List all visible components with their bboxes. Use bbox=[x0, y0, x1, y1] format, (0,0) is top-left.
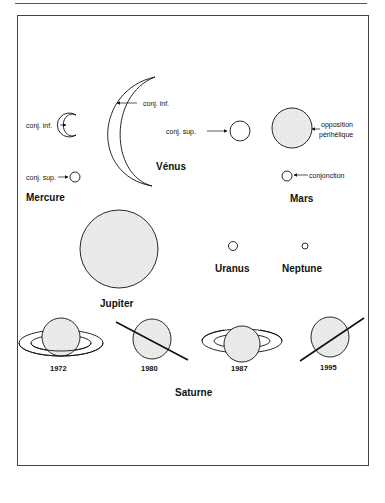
uranus-disk bbox=[229, 242, 238, 251]
venus-crescent bbox=[108, 77, 155, 186]
mars-disk-conjonction bbox=[282, 171, 292, 181]
saturne-year-1987: 1987 bbox=[231, 364, 248, 373]
neptune-name: Neptune bbox=[282, 263, 322, 274]
saturne-1980 bbox=[116, 319, 188, 360]
venus-disk bbox=[230, 121, 250, 141]
saturne-year-1995: 1995 bbox=[320, 363, 337, 372]
venus-name: Vénus bbox=[156, 161, 186, 172]
saturne-1995 bbox=[300, 317, 364, 361]
jupiter-disk bbox=[80, 210, 158, 288]
saturne-year-1972: 1972 bbox=[50, 364, 67, 373]
saturne-1987 bbox=[202, 326, 282, 362]
uranus-name: Uranus bbox=[215, 263, 250, 274]
mercure-label-sup: conj. sup. bbox=[26, 174, 56, 182]
venus-label-inf: conj. inf. bbox=[143, 100, 169, 108]
saturne-name: Saturne bbox=[175, 387, 213, 398]
saturne-1972 bbox=[19, 318, 103, 356]
planet-diagram: conj. inf. conj. sup. Mercure conj. inf.… bbox=[0, 0, 385, 503]
venus-label-sup: conj. sup. bbox=[166, 128, 196, 136]
mars-disk-opposition bbox=[272, 108, 312, 148]
jupiter-name: Jupiter bbox=[100, 298, 133, 309]
neptune-disk bbox=[302, 243, 308, 249]
mars-label-opposition: opposition bbox=[321, 121, 353, 129]
mercure-name: Mercure bbox=[26, 192, 65, 203]
mercure-label-inf: conj. inf. bbox=[26, 122, 52, 130]
mars-label-perihelique: périhélique bbox=[319, 131, 353, 139]
mars-name: Mars bbox=[290, 193, 314, 204]
mercure-disk bbox=[70, 172, 80, 182]
mars-label-conjonction: conjonction bbox=[309, 172, 345, 180]
saturne-year-1980: 1980 bbox=[141, 364, 158, 373]
